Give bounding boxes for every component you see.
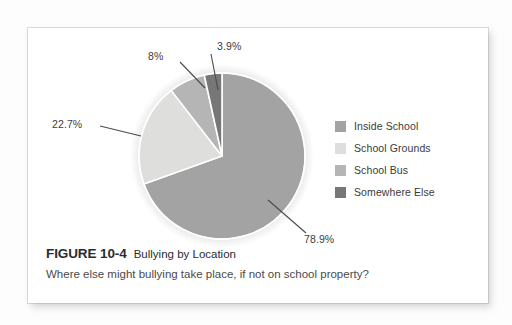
legend-swatch-icon-school-grounds: [335, 143, 346, 154]
legend-label-school-grounds: School Grounds: [354, 142, 431, 154]
figure-caption: FIGURE 10-4Bullying by Location Where el…: [46, 246, 476, 280]
legend-item-school-grounds[interactable]: School Grounds: [335, 138, 475, 158]
callout-label-somewhere-else: 3.9%: [217, 40, 241, 52]
callout-label-school-grounds: 22.7%: [52, 118, 82, 130]
figure-subtitle: Where else might bullying take place, if…: [46, 268, 476, 280]
legend-item-school-bus[interactable]: School Bus: [335, 160, 475, 180]
callout-label-school-bus: 8%: [148, 50, 163, 62]
legend-swatch-icon-somewhere-else: [335, 187, 346, 198]
legend-swatch-icon-school-bus: [335, 165, 346, 176]
chart-legend: Inside School School Grounds School Bus …: [335, 116, 475, 204]
figure-number: FIGURE 10-4: [46, 246, 127, 261]
callout-label-inside-school: 78.9%: [304, 233, 334, 245]
legend-swatch-icon-inside-school: [335, 121, 346, 132]
legend-label-somewhere-else: Somewhere Else: [354, 186, 435, 198]
legend-label-inside-school: Inside School: [354, 120, 418, 132]
legend-label-school-bus: School Bus: [354, 164, 408, 176]
figure-title: Bullying by Location: [134, 248, 236, 260]
figure-card: 3.9% 8% 22.7% 78.9% Inside School School…: [28, 28, 488, 303]
legend-item-somewhere-else[interactable]: Somewhere Else: [335, 182, 475, 202]
caption-headline: FIGURE 10-4Bullying by Location: [46, 246, 476, 263]
legend-item-inside-school[interactable]: Inside School: [335, 116, 475, 136]
